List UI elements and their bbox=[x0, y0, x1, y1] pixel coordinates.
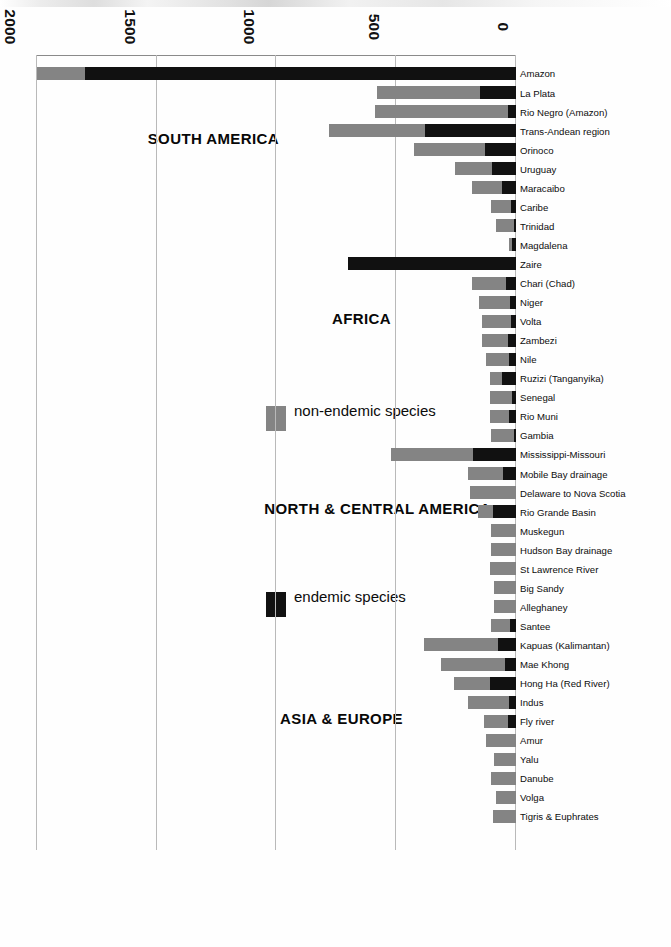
bar-segment-endemic bbox=[503, 467, 516, 480]
bar-category-label: Mobile Bay drainage bbox=[520, 468, 607, 479]
bar-segment-non-endemic bbox=[496, 791, 516, 804]
x-tick-label-0: 0 bbox=[494, 23, 512, 32]
bar-category-label: Rio Negro (Amazon) bbox=[520, 106, 607, 117]
x-tick-label-2000: 2000 bbox=[1, 9, 19, 44]
bar-segment-non-endemic bbox=[490, 391, 513, 404]
bar-segment-non-endemic bbox=[493, 810, 516, 823]
bar-segment-endemic bbox=[493, 505, 516, 518]
bar-category-label: Amazon bbox=[520, 68, 555, 79]
bar-segment-endemic bbox=[509, 410, 516, 423]
bar-category-label: Volta bbox=[520, 316, 541, 327]
bar-category-label: Santee bbox=[520, 620, 550, 631]
bar-category-label: Niger bbox=[520, 297, 543, 308]
bar-segment-non-endemic bbox=[486, 353, 509, 366]
x-tick-label-1000: 1000 bbox=[241, 9, 259, 44]
bar-segment-non-endemic bbox=[375, 105, 508, 118]
bar-category-label: Big Sandy bbox=[520, 582, 564, 593]
bar-segment-endemic bbox=[509, 353, 516, 366]
bar-category-label: Ruzizi (Tanganyika) bbox=[520, 373, 604, 384]
bar-segment-endemic bbox=[508, 105, 516, 118]
bar-category-label: Kapuas (Kalimantan) bbox=[520, 640, 610, 651]
bar-segment-endemic bbox=[473, 448, 516, 461]
bar-category-label: Zambezi bbox=[520, 335, 557, 346]
gridline-2000 bbox=[36, 55, 37, 850]
bar-segment-non-endemic bbox=[441, 658, 506, 671]
bar-segment-non-endemic bbox=[494, 753, 516, 766]
bar-segment-non-endemic bbox=[486, 734, 516, 747]
bar-category-label: Fly river bbox=[520, 716, 554, 727]
bar-category-label: Gambia bbox=[520, 430, 554, 441]
bar-category-label: Alleghaney bbox=[520, 601, 567, 612]
bar-segment-non-endemic bbox=[491, 524, 516, 537]
bar-segment-non-endemic bbox=[490, 410, 509, 423]
bar-segment-non-endemic bbox=[482, 334, 507, 347]
bar-segment-non-endemic bbox=[472, 181, 502, 194]
bar-segment-non-endemic bbox=[377, 86, 480, 99]
bar-segment-endemic bbox=[348, 258, 516, 271]
bar-category-label: Maracaibo bbox=[520, 182, 565, 193]
bar-segment-endemic bbox=[512, 391, 516, 404]
bar-segment-non-endemic bbox=[491, 429, 514, 442]
bar-segment-non-endemic bbox=[484, 715, 508, 728]
bar-segment-endemic bbox=[510, 619, 516, 632]
bar-category-label: Rio Muni bbox=[520, 411, 558, 422]
bar-category-label: Uruguay bbox=[520, 163, 556, 174]
category-axis bbox=[37, 55, 516, 56]
bar-category-label: St Lawrence River bbox=[520, 563, 598, 574]
bar-segment-endemic bbox=[511, 200, 516, 213]
bar-segment-endemic bbox=[492, 162, 516, 175]
bar-segment-endemic bbox=[480, 86, 516, 99]
bar-segment-non-endemic bbox=[468, 696, 509, 709]
bar-category-label: La Plata bbox=[520, 87, 555, 98]
gridline-1000 bbox=[276, 55, 277, 850]
bar-category-label: Orinoco bbox=[520, 144, 554, 155]
bar-segment-non-endemic bbox=[491, 200, 511, 213]
bar-segment-non-endemic bbox=[479, 296, 510, 309]
bar-segment-endemic bbox=[502, 181, 516, 194]
bar-category-label: Rio Grande Basin bbox=[520, 506, 596, 517]
bar-segment-endemic bbox=[509, 696, 516, 709]
bar-segment-non-endemic bbox=[329, 124, 425, 137]
bar-segment-non-endemic bbox=[468, 467, 503, 480]
bar-segment-non-endemic bbox=[494, 581, 516, 594]
bar-segment-non-endemic bbox=[482, 315, 511, 328]
bar-category-label: Hudson Bay drainage bbox=[520, 544, 612, 555]
bar-segment-non-endemic bbox=[491, 772, 516, 785]
scanned-page: SOUTH AMERICA AFRICA NORTH & CENTRAL AME… bbox=[0, 0, 671, 947]
bar-segment-non-endemic bbox=[37, 67, 85, 80]
x-tick-label-500: 500 bbox=[365, 14, 383, 40]
bar-segment-endemic bbox=[498, 639, 516, 652]
bar-segment-endemic bbox=[490, 677, 516, 690]
bar-category-label: Hong Ha (Red River) bbox=[520, 678, 610, 689]
plot-area: 0500100015002000 AmazonLa PlataRio Negro… bbox=[37, 55, 516, 850]
bar-segment-endemic bbox=[511, 315, 516, 328]
bar-segment-non-endemic bbox=[491, 543, 516, 556]
bar-category-label: Trans-Andean region bbox=[520, 125, 610, 136]
bar-category-label: Danube bbox=[520, 773, 554, 784]
bar-segment-non-endemic bbox=[424, 639, 498, 652]
bar-segment-non-endemic bbox=[509, 238, 513, 251]
bar-segment-endemic bbox=[508, 334, 516, 347]
bar-segment-non-endemic bbox=[391, 448, 472, 461]
bar-segment-endemic bbox=[514, 429, 516, 442]
x-tick-label-1500: 1500 bbox=[121, 9, 139, 44]
bar-category-label: Muskegun bbox=[520, 525, 564, 536]
bar-segment-non-endemic bbox=[455, 162, 492, 175]
bar-category-label: Tigris & Euphrates bbox=[520, 811, 599, 822]
bar-segment-endemic bbox=[485, 143, 516, 156]
bar-segment-non-endemic bbox=[472, 277, 507, 290]
bar-segment-endemic bbox=[508, 715, 516, 728]
bar-category-label: Volga bbox=[520, 792, 544, 803]
bar-category-label: Delaware to Nova Scotia bbox=[520, 487, 626, 498]
bar-category-label: Amur bbox=[520, 735, 543, 746]
bar-segment-non-endemic bbox=[491, 619, 510, 632]
bar-segment-non-endemic bbox=[471, 486, 517, 499]
bar-segment-endemic bbox=[506, 277, 516, 290]
bar-category-label: Zaire bbox=[520, 259, 542, 270]
bar-category-label: Senegal bbox=[520, 392, 555, 403]
bar-segment-non-endemic bbox=[478, 505, 494, 518]
bar-segment-endemic bbox=[512, 238, 516, 251]
bar-category-label: Chari (Chad) bbox=[520, 278, 575, 289]
bar-segment-endemic bbox=[85, 67, 516, 80]
bar-category-label: Yalu bbox=[520, 754, 539, 765]
